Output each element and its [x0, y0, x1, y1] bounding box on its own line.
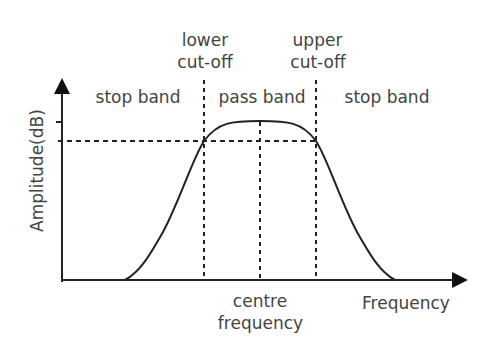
y-axis-label: Amplitude(dB) [27, 109, 47, 232]
y-axis-arrow-icon [54, 78, 70, 94]
x-axis-label: Frequency [356, 293, 456, 314]
upper-cutoff-label-2: cut-off [283, 52, 353, 73]
pass-band-label: pass band [212, 87, 312, 108]
centre-label-1: centre [225, 291, 295, 312]
x-axis-arrow-icon [452, 272, 468, 288]
centre-label-2: frequency [213, 313, 308, 334]
stop-band-left-label: stop band [88, 87, 188, 108]
upper-cutoff-label-1: upper [285, 30, 350, 51]
stop-band-right-label: stop band [337, 87, 437, 108]
lower-cutoff-label-1: lower [175, 30, 235, 51]
response-curve [125, 121, 395, 280]
lower-cutoff-label-2: cut-off [170, 52, 240, 73]
